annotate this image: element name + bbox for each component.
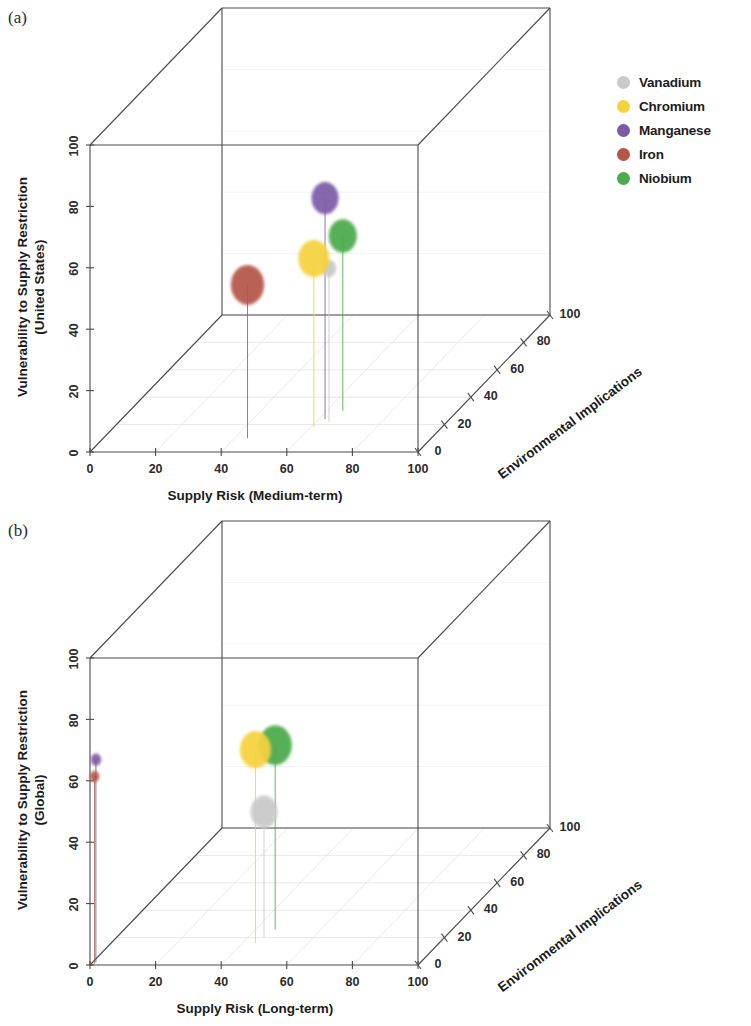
panel-b-y-axis-title: Vulnerability to Supply Restriction (Glo… (14, 635, 48, 965)
data-point-niobium[interactable] (329, 219, 357, 252)
data-point-vanadium[interactable] (250, 796, 277, 828)
figure-panel-a: (a) 020406080100020406080100020406080100… (0, 0, 751, 513)
legend-item-label: Vanadium (639, 75, 701, 90)
legend-item-label: Chromium (639, 99, 705, 114)
panel-b-y-axis-title-line2: (Global) (31, 635, 48, 965)
axis-tick-label: 60 (510, 875, 524, 889)
data-point-chromium[interactable] (240, 731, 271, 768)
axis-tick-label: 60 (67, 775, 81, 789)
axis-tick-label: 40 (214, 462, 228, 476)
legend-item-label: Manganese (639, 123, 711, 138)
legend-item[interactable]: Manganese (617, 120, 745, 141)
axis-tick-label: 60 (280, 975, 294, 989)
legend-item-label: Iron (639, 147, 664, 162)
axis-tick-label: 40 (484, 902, 498, 916)
axis-tick-label: 20 (149, 462, 163, 476)
panel-b-y-axis-title-line1: Vulnerability to Supply Restriction (14, 635, 31, 965)
panel-a-x-axis-title: Supply Risk (Medium-term) (90, 488, 420, 503)
axis-tick-label: 60 (510, 362, 524, 376)
axis-tick-label: 80 (67, 713, 81, 727)
panel-a-legend: Vanadium Chromium Manganese Iron Niobium (617, 72, 745, 192)
legend-color-swatch-icon (617, 100, 630, 113)
axis-tick-label: 100 (408, 462, 429, 476)
legend-item-label: Niobium (639, 171, 692, 186)
axis-tick-label: 40 (67, 323, 81, 337)
figure-panel-b: (b) 020406080100020406080100020406080100… (0, 513, 751, 1026)
legend-color-swatch-icon (617, 76, 630, 89)
axes-box-wireframe (90, 8, 550, 452)
legend-item[interactable]: Chromium (617, 96, 745, 117)
axis-tick-label: 100 (408, 975, 429, 989)
legend-item[interactable]: Iron (617, 144, 745, 165)
panel-b-x-axis-title: Supply Risk (Long-term) (90, 1001, 420, 1016)
data-points (90, 725, 292, 828)
data-drop-lines (95, 745, 276, 963)
data-point-manganese[interactable] (91, 753, 101, 765)
legend-color-swatch-icon (617, 124, 630, 137)
axis-tick-label: 20 (457, 930, 471, 944)
data-point-iron[interactable] (231, 265, 264, 305)
axis-tick-label: 80 (345, 462, 359, 476)
axis-tick-label: 40 (67, 836, 81, 850)
axis-tick-label: 80 (67, 200, 81, 214)
data-point-manganese[interactable] (312, 182, 339, 214)
panel-a-y-axis-title-line2: (United States) (31, 122, 48, 452)
axis-tick-label: 0 (435, 957, 442, 971)
axis-tick-label: 100 (560, 820, 581, 834)
axis-tick-label: 20 (457, 417, 471, 431)
axis-tick-label: 20 (149, 975, 163, 989)
axis-tick-label: 60 (67, 262, 81, 276)
axis-tick-label: 20 (67, 898, 81, 912)
axis-tick-label: 60 (280, 462, 294, 476)
axis-tick-label: 40 (214, 975, 228, 989)
data-point-iron[interactable] (90, 771, 99, 782)
data-points (231, 182, 357, 305)
data-drop-lines (248, 198, 343, 438)
data-point-chromium[interactable] (298, 240, 329, 277)
axis-tick-label: 80 (537, 847, 551, 861)
legend-color-swatch-icon (617, 148, 630, 161)
axes-box-wireframe (90, 521, 550, 965)
axis-tick-label: 100 (560, 307, 581, 321)
legend-item[interactable]: Niobium (617, 168, 745, 189)
axis-tick-label: 100 (67, 649, 81, 670)
plot-b-canvas: 020406080100020406080100020406080100 (0, 513, 751, 1026)
axis-tick-label: 20 (67, 385, 81, 399)
axis-tick-label: 0 (87, 462, 94, 476)
axis-tick-label: 100 (67, 136, 81, 157)
legend-color-swatch-icon (617, 172, 630, 185)
axis-tick-label: 0 (67, 962, 81, 969)
axis-tick-label: 80 (537, 334, 551, 348)
axis-tick-label: 80 (345, 975, 359, 989)
panel-a-y-axis-title-line1: Vulnerability to Supply Restriction (14, 122, 31, 452)
axis-tick-label: 0 (87, 975, 94, 989)
axis-tick-label: 0 (67, 449, 81, 456)
panel-a-y-axis-title: Vulnerability to Supply Restriction (Uni… (14, 122, 48, 452)
axis-tick-label: 40 (484, 389, 498, 403)
axis-tick-label: 0 (435, 444, 442, 458)
legend-item[interactable]: Vanadium (617, 72, 745, 93)
